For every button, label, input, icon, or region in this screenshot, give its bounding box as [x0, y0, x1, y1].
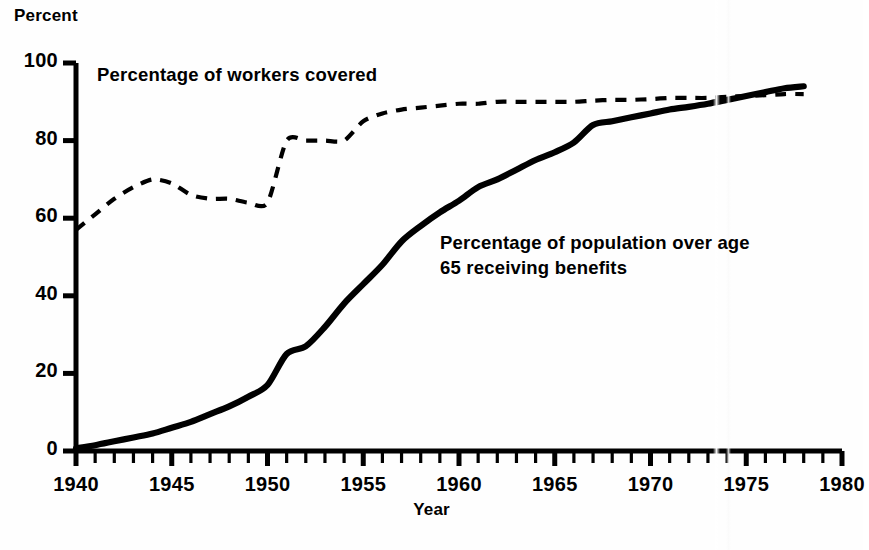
y-tick-label: 20	[35, 359, 58, 382]
y-axis-title: Percent	[14, 6, 78, 26]
series-label-workers: Percentage of workers covered	[97, 63, 377, 88]
y-tick-label: 0	[47, 437, 58, 460]
y-tick-label: 40	[35, 282, 58, 305]
y-tick-label: 80	[35, 127, 58, 150]
x-tick-label: 1980	[782, 473, 869, 496]
y-tick-label: 100	[24, 49, 58, 72]
series-label-population-line1: Percentage of population over age	[440, 231, 840, 256]
series-label-population-line2: 65 receiving benefits	[440, 256, 840, 281]
y-tick-label: 60	[35, 204, 58, 227]
x-axis-title: Year	[0, 500, 863, 520]
series-label-population: Percentage of population over age 65 rec…	[440, 231, 840, 281]
